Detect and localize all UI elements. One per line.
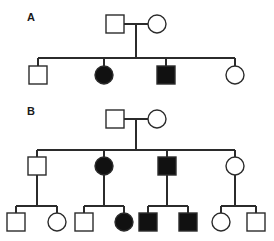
symbol-male-affected-b-iii-6[interactable] [179,213,197,231]
symbol-male-unaffected-a-i-1[interactable] [106,15,124,33]
panel-a: A [27,11,244,84]
panel-b-descent-gen2-gen3 [37,175,235,206]
panel-a-sibship-connectors [38,58,235,66]
pedigree-figure: A B [0,0,274,241]
symbol-male-affected-b-iii-5[interactable] [139,213,157,231]
pedigree-canvas: A B [0,0,274,241]
panel-b-generation-1-connectors [124,119,148,150]
panel-b-sibship-connectors-gen2 [37,150,235,157]
symbol-male-unaffected-b-i-1[interactable] [106,110,124,128]
panel-a-label: A [27,11,35,23]
symbol-female-unaffected-b-ii-4[interactable] [226,157,244,175]
symbol-female-unaffected-a-i-2[interactable] [148,15,166,33]
symbol-female-affected-a-ii-2[interactable] [95,66,113,84]
symbol-female-unaffected-a-ii-4[interactable] [226,66,244,84]
symbol-male-unaffected-b-iii-8[interactable] [247,213,265,231]
symbol-male-unaffected-b-iii-1[interactable] [7,213,25,231]
panel-b-sibship-connectors-gen3 [16,206,256,213]
symbol-male-affected-a-ii-3[interactable] [157,66,175,84]
symbol-female-unaffected-b-i-2[interactable] [148,110,166,128]
symbol-male-unaffected-b-iii-3[interactable] [75,213,93,231]
symbol-female-unaffected-b-iii-2[interactable] [48,213,66,231]
panel-a-generation-1-connectors [124,24,148,58]
symbol-male-affected-b-ii-3[interactable] [158,157,176,175]
panel-b: B [7,105,265,231]
symbol-male-unaffected-b-ii-1[interactable] [28,157,46,175]
symbol-female-affected-b-iii-4[interactable] [115,213,133,231]
symbol-male-unaffected-a-ii-1[interactable] [29,66,47,84]
panel-b-label: B [27,105,35,117]
symbol-female-affected-b-ii-2[interactable] [95,157,113,175]
symbol-female-unaffected-b-iii-7[interactable] [212,213,230,231]
